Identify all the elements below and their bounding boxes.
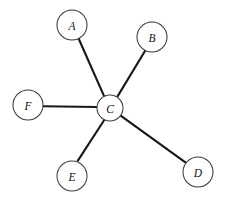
graph-node-label-a: A — [67, 20, 76, 32]
graph-edge-c-a — [79, 39, 105, 97]
graph-node-label-e: E — [67, 171, 75, 183]
graph-node-label-f: F — [23, 100, 32, 112]
graph-node-f[interactable]: F — [13, 90, 43, 120]
graph-node-label-d: D — [193, 167, 203, 179]
graph-edge-c-e — [77, 120, 104, 162]
graph-node-label-b: B — [148, 32, 155, 44]
graph-node-e[interactable]: E — [57, 161, 87, 191]
graph-node-d[interactable]: D — [183, 157, 213, 187]
diagram-canvas: ABCDEF — [0, 0, 225, 203]
nodes-layer: ABCDEF — [13, 10, 213, 191]
graph-node-b[interactable]: B — [137, 22, 167, 52]
graph-edge-c-b — [117, 50, 146, 97]
graph-edge-c-d — [120, 115, 186, 162]
graph-node-c[interactable]: C — [97, 95, 123, 121]
graph-node-label-c: C — [106, 103, 114, 115]
graph-node-a[interactable]: A — [57, 10, 87, 40]
star-graph-svg: ABCDEF — [0, 0, 225, 203]
graph-edge-c-f — [43, 106, 97, 107]
